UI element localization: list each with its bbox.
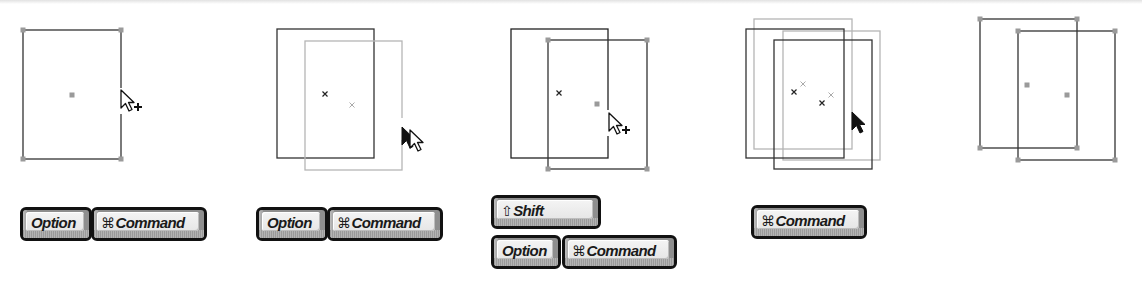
command-icon: ⌘ [572,243,585,259]
command-icon: ⌘ [337,215,350,231]
corner-handle [546,38,551,43]
step-3-illustration [511,29,650,172]
corner-handle [1075,17,1080,22]
duplicate-pointer-icon [121,90,142,111]
key-label: ⌘Command [101,214,185,232]
corner-handle [1016,158,1021,163]
corner-handle [119,157,124,162]
key-label: ⌘Command [337,214,421,232]
preview-center-x-icon [801,82,806,87]
center-x-icon [792,90,797,95]
center-point [70,93,75,98]
center-x-icon [323,92,328,97]
corner-handle [1016,29,1021,34]
step-1-illustration [21,28,143,162]
duplicate-pointer-icon [609,113,630,134]
key-command: ⌘Command [562,235,677,269]
key-option: Option [256,207,328,241]
preview-center-x-icon [350,103,355,108]
key-command: ⌘Command [751,205,867,239]
center-x-icon [820,101,825,106]
key-command: ⌘Command [91,207,207,241]
corner-handle [645,38,650,43]
step-2-illustration [277,29,423,170]
key-label: ⌘Command [761,212,845,230]
command-icon: ⌘ [101,215,114,231]
center-point [595,102,600,107]
corner-handle [1113,158,1118,163]
key-shift: ⇧Shift [491,195,601,229]
step-4-illustration [746,19,880,169]
key-label: Option [501,242,547,260]
command-icon: ⌘ [761,213,774,229]
drag-copy-pointer-icon [410,130,423,151]
center-point [1025,83,1030,88]
corner-handle [1113,29,1118,34]
key-command: ⌘Command [327,207,443,241]
shift-arrow-icon: ⇧ [501,203,512,219]
corner-handle [21,157,26,162]
key-label: Option [266,214,312,232]
step-5-illustration [978,17,1118,163]
move-pointer-icon [852,112,865,133]
key-label: Option [30,214,76,232]
preview-center-x-icon [829,93,834,98]
center-x-icon [557,91,562,96]
key-label: ⇧Shift [501,202,543,220]
corner-handle [119,28,124,33]
corner-handle [1075,146,1080,151]
corner-handle [546,167,551,172]
preview-rectangle [305,41,402,170]
key-option: Option [20,207,92,241]
key-label: ⌘Command [572,242,656,260]
corner-handle [21,28,26,33]
corner-handle [978,146,983,151]
center-point [1065,93,1070,98]
corner-handle [645,167,650,172]
corner-handle [978,17,983,22]
key-option: Option [491,235,561,269]
